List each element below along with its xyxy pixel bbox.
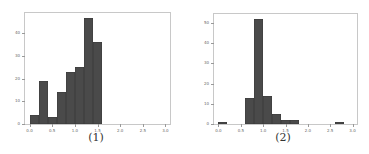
y-tick (211, 63, 214, 64)
x-tick (353, 124, 354, 127)
y-tick-label: 30 (195, 60, 209, 65)
histogram-2-caption: (2) (263, 131, 303, 144)
y-tick (211, 124, 214, 125)
x-tick (241, 124, 242, 127)
y-tick (211, 43, 214, 44)
x-tick-label: 2.5 (323, 128, 337, 133)
y-tick (211, 23, 214, 24)
y-tick-label: 50 (195, 20, 209, 25)
y-tick (211, 84, 214, 85)
y-tick-label: 20 (195, 81, 209, 86)
y-tick (211, 104, 214, 105)
x-tick-label: 3.0 (346, 128, 360, 133)
x-tick (330, 124, 331, 127)
histogram-bar (263, 96, 272, 124)
histogram-bar (254, 19, 263, 124)
x-tick-label: 0.0 (211, 128, 225, 133)
histogram-panel-2: 010203040500.00.51.01.52.02.53.0 (2) (0, 0, 369, 154)
histogram-bar (218, 122, 227, 124)
y-tick-label: 0 (195, 121, 209, 126)
y-tick-label: 40 (195, 40, 209, 45)
x-tick (218, 124, 219, 127)
histogram-bar (272, 114, 281, 124)
histogram-bar (245, 98, 254, 124)
histogram-2-plot-area: 010203040500.00.51.01.52.02.53.0 (213, 13, 358, 125)
x-tick (286, 124, 287, 127)
histogram-bar (290, 120, 299, 124)
histogram-bar (335, 122, 344, 124)
x-tick (263, 124, 264, 127)
x-tick (308, 124, 309, 127)
x-tick-label: 0.5 (234, 128, 248, 133)
y-tick-label: 10 (195, 101, 209, 106)
